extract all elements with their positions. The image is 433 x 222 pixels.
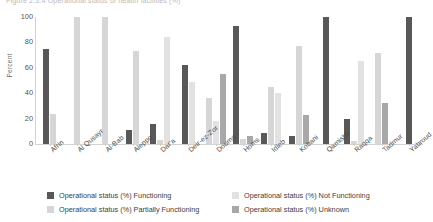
- bar: [289, 136, 295, 144]
- bar-group: [119, 17, 147, 144]
- legend-label: Operational status (%) Functioning: [59, 191, 171, 200]
- bar-group: [91, 17, 119, 144]
- bar-group: [285, 17, 313, 144]
- bar-group: [147, 17, 175, 144]
- bar-group: [340, 17, 368, 144]
- legend-item: Operational status (%) Unknown: [232, 205, 419, 214]
- figure-caption-clipped: Figure 2.3.4 Operational status of healt…: [6, 0, 418, 5]
- x-tick-mark: [299, 144, 300, 146]
- bar: [74, 17, 80, 144]
- bar: [182, 65, 188, 144]
- legend-label: Operational status (%) Partially Functio…: [59, 205, 199, 214]
- x-tick-mark: [271, 144, 272, 146]
- bar: [126, 130, 132, 144]
- chart-legend: Operational status (%) FunctioningOperat…: [47, 188, 419, 216]
- bar-group: [174, 17, 202, 144]
- bar: [220, 74, 226, 144]
- legend-swatch: [232, 206, 239, 213]
- bar-group: [36, 17, 64, 144]
- x-tick-mark: [382, 144, 383, 146]
- bar-group: [395, 17, 423, 144]
- x-tick-mark: [77, 144, 78, 146]
- bar: [43, 49, 49, 144]
- x-tick-mark: [216, 144, 217, 146]
- bar: [189, 82, 195, 144]
- x-tick-mark: [409, 144, 410, 146]
- bar: [233, 26, 239, 144]
- bar-group: [257, 17, 285, 144]
- legend-swatch: [47, 192, 54, 199]
- x-tick-mark: [354, 144, 355, 146]
- bar: [102, 17, 108, 144]
- y-tick-label: 100: [5, 13, 33, 20]
- legend-label: Operational status (%) Not Functioning: [244, 191, 370, 200]
- bar: [296, 46, 302, 144]
- bar-group: [230, 17, 258, 144]
- x-tick-mark: [243, 144, 244, 146]
- legend-swatch: [232, 192, 239, 199]
- bar: [50, 114, 56, 144]
- bar: [375, 53, 381, 144]
- bar: [323, 17, 329, 144]
- bar: [133, 51, 139, 144]
- bar: [150, 124, 156, 144]
- bar: [275, 93, 281, 144]
- legend-item: Operational status (%) Partially Functio…: [47, 205, 232, 214]
- x-tick-mark: [326, 144, 327, 146]
- x-tick-mark: [105, 144, 106, 146]
- legend-item: Operational status (%) Not Functioning: [232, 191, 419, 200]
- bar: [261, 133, 267, 144]
- y-tick-label: 20: [5, 115, 33, 122]
- bar-group: [64, 17, 92, 144]
- x-tick-mark: [160, 144, 161, 146]
- plot-area: [36, 17, 423, 144]
- bar: [382, 103, 388, 144]
- y-axis-title: Percent: [6, 41, 13, 91]
- y-axis-ticks: 020406080100: [0, 0, 33, 222]
- x-tick-mark: [50, 144, 51, 146]
- x-tick-mark: [188, 144, 189, 146]
- legend-item: Operational status (%) Functioning: [47, 191, 232, 200]
- bar-group: [312, 17, 340, 144]
- bar: [406, 17, 412, 144]
- bar: [268, 87, 274, 144]
- bar-group: [368, 17, 396, 144]
- legend-label: Operational status (%) Unknown: [244, 205, 349, 214]
- x-tick-mark: [133, 144, 134, 146]
- y-tick-label: 0: [5, 140, 33, 147]
- bar: [358, 61, 364, 144]
- bar: [164, 37, 170, 144]
- figure-caption-text: Figure 2.3.4 Operational status of healt…: [6, 0, 418, 5]
- legend-swatch: [47, 206, 54, 213]
